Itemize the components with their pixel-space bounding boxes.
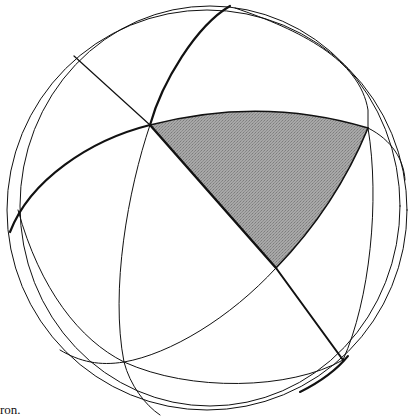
great-circle-ab-left — [10, 125, 150, 232]
shaded-spherical-triangle — [150, 111, 368, 268]
great-circle-a-to-bottom — [119, 125, 160, 415]
great-circle-top-to-a — [150, 6, 230, 125]
sphere-figure — [0, 0, 408, 418]
great-circle-outer-ellipse — [20, 6, 400, 406]
great-circle-diagonal-upper — [74, 56, 150, 125]
great-circle-diagonal-lower — [276, 268, 343, 360]
figure-caption: ron. — [0, 403, 21, 417]
great-circle-c-to-left — [60, 268, 276, 364]
